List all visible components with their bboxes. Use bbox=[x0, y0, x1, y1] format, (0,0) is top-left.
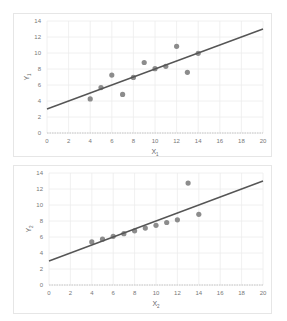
data-point bbox=[196, 212, 201, 217]
y-tick-label: 4 bbox=[38, 98, 42, 104]
x-tick-label: 2 bbox=[67, 138, 71, 144]
y-tick-label: 10 bbox=[36, 202, 43, 208]
x-tick-label: 20 bbox=[260, 290, 267, 296]
y-tick-label: 6 bbox=[40, 234, 44, 240]
data-point bbox=[174, 44, 179, 49]
y-tick-label: 10 bbox=[34, 50, 41, 56]
x-axis-label: X1 bbox=[151, 148, 159, 156]
x-tick-label: 14 bbox=[195, 290, 202, 296]
scatter-chart-1: 0246810121416182002468101214X1Y1 bbox=[13, 13, 272, 157]
y-tick-label: 12 bbox=[34, 34, 41, 40]
y-tick-label: 4 bbox=[40, 250, 44, 256]
y-tick-label: 6 bbox=[38, 82, 42, 88]
x-tick-label: 18 bbox=[238, 138, 245, 144]
x-tick-label: 0 bbox=[47, 290, 51, 296]
data-point bbox=[88, 96, 93, 101]
x-tick-label: 2 bbox=[69, 290, 73, 296]
x-tick-label: 4 bbox=[90, 290, 94, 296]
x-tick-label: 4 bbox=[89, 138, 93, 144]
data-point bbox=[109, 72, 114, 77]
y-tick-label: 2 bbox=[38, 114, 42, 120]
data-point bbox=[185, 70, 190, 75]
data-point bbox=[186, 180, 191, 185]
x-tick-label: 12 bbox=[174, 290, 181, 296]
y-tick-label: 8 bbox=[38, 66, 42, 72]
x-tick-label: 8 bbox=[133, 290, 137, 296]
x-tick-label: 10 bbox=[153, 290, 160, 296]
y-tick-label: 12 bbox=[36, 186, 43, 192]
x-tick-label: 18 bbox=[238, 290, 245, 296]
x-tick-label: 6 bbox=[110, 138, 114, 144]
x-tick-label: 16 bbox=[217, 290, 224, 296]
x-tick-label: 12 bbox=[173, 138, 180, 144]
data-point bbox=[153, 223, 158, 228]
y-axis-label: Y1 bbox=[23, 73, 32, 81]
data-point bbox=[142, 60, 147, 65]
y-tick-label: 8 bbox=[40, 218, 44, 224]
x-tick-label: 20 bbox=[260, 138, 267, 144]
x-tick-label: 10 bbox=[152, 138, 159, 144]
x-tick-label: 16 bbox=[216, 138, 223, 144]
x-tick-label: 0 bbox=[45, 138, 49, 144]
y-tick-label: 0 bbox=[38, 130, 42, 136]
y-tick-label: 0 bbox=[40, 282, 44, 288]
y-tick-label: 2 bbox=[40, 266, 44, 272]
chart-1-plot: 0246810121416182002468101214X1Y1 bbox=[14, 14, 271, 156]
data-point bbox=[120, 92, 125, 97]
y-tick-label: 14 bbox=[36, 170, 43, 176]
data-point bbox=[164, 220, 169, 225]
x-axis-label: X2 bbox=[152, 300, 160, 309]
data-point bbox=[175, 217, 180, 222]
x-tick-label: 14 bbox=[195, 138, 202, 144]
y-tick-label: 14 bbox=[34, 18, 41, 24]
x-tick-label: 6 bbox=[112, 290, 116, 296]
y-axis-label: Y2 bbox=[25, 225, 34, 233]
x-tick-label: 8 bbox=[132, 138, 136, 144]
chart-2-plot: 0246810121416182002468101214X2Y2 bbox=[14, 166, 271, 313]
scatter-chart-2: 0246810121416182002468101214X2Y2 bbox=[13, 165, 272, 314]
